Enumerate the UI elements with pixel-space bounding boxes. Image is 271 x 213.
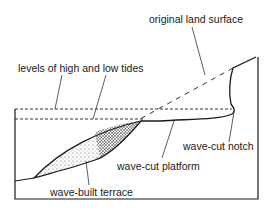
label-tide-levels: levels of high and low tides (18, 62, 144, 74)
leader-platform (162, 121, 174, 158)
leader-high-tide (55, 75, 62, 109)
leader-original-land (192, 27, 205, 75)
coastal-erosion-diagram: original land surface levels of high and… (0, 0, 271, 213)
original-land-surface-line (140, 68, 233, 119)
leader-notch (229, 112, 234, 142)
label-wave-cut-platform: wave-cut platform (116, 160, 200, 172)
wave-built-terrace-dense (95, 121, 141, 157)
cliff-profile (141, 57, 256, 121)
label-wave-cut-notch: wave-cut notch (182, 140, 254, 152)
leader-low-tide (93, 75, 106, 119)
leader-terrace (86, 161, 89, 185)
label-original-land-surface: original land surface (149, 13, 243, 25)
diagram-frame (15, 57, 258, 199)
label-wave-built-terrace: wave-built terrace (49, 186, 133, 198)
sea-floor (15, 178, 34, 181)
